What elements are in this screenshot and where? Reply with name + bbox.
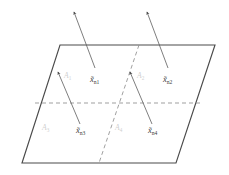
region-label-a2: A2 [136,71,145,81]
point-label-xn1-subscript: n1 [94,79,100,85]
point-label-xn4-subscript: n4 [152,130,158,136]
region-label-a1-subscript: 1 [69,75,72,81]
partition-diagram: A1 A2 A3 A4 x̃n1 x̃n2 x̃n3 x̃n4 [0,0,229,175]
point-label-xn1: x̃n1 [89,74,100,85]
vector-arrow-xn1 [74,12,95,68]
point-label-xn3: x̃n3 [75,125,86,136]
region-label-a3: A3 [41,123,50,133]
figure-container: A1 A2 A3 A4 x̃n1 x̃n2 x̃n3 x̃n4 [0,0,229,175]
region-label-a4-subscript: 4 [120,127,123,133]
region-label-a3-subscript: 3 [47,127,50,133]
region-label-a4: A4 [114,123,123,133]
point-label-xn3-subscript: n3 [80,130,86,136]
diagonal-divider-line [99,45,139,163]
region-label-a1: A1 [63,71,72,81]
plane-parallelogram [22,45,215,163]
vector-arrow-xn2 [147,12,168,68]
point-label-xn2-subscript: n2 [167,79,173,85]
point-label-xn2: x̃n2 [162,74,173,85]
point-label-xn4: x̃n4 [147,125,158,136]
region-label-a2-subscript: 2 [142,75,145,81]
